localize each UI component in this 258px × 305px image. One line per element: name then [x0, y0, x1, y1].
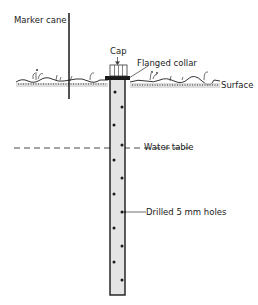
hole [113, 261, 116, 264]
hole [113, 124, 116, 127]
hole [121, 245, 124, 248]
dipwell-diagram: Marker cane Cap Flanged collar Surface W… [0, 0, 258, 305]
flanged-collar-label: Flanged collar [137, 58, 197, 68]
drilled-holes-label: Drilled 5 mm holes [146, 207, 227, 217]
hole [121, 177, 124, 180]
marker-cane-label: Marker cane [14, 15, 67, 25]
ground-surface-right [130, 71, 220, 88]
hole [113, 227, 116, 230]
hole [121, 144, 124, 147]
water-table-label: Water table [144, 142, 193, 152]
hole [121, 279, 124, 282]
dipwell-tube [110, 78, 125, 295]
hole [114, 91, 117, 94]
cap-label: Cap [110, 46, 127, 56]
cap [110, 65, 127, 76]
hole [113, 159, 116, 162]
hole [121, 106, 124, 109]
flanged-collar [105, 76, 130, 80]
ground-surface-left [16, 69, 108, 87]
hole [113, 193, 116, 196]
surface-label: Surface [221, 80, 253, 90]
